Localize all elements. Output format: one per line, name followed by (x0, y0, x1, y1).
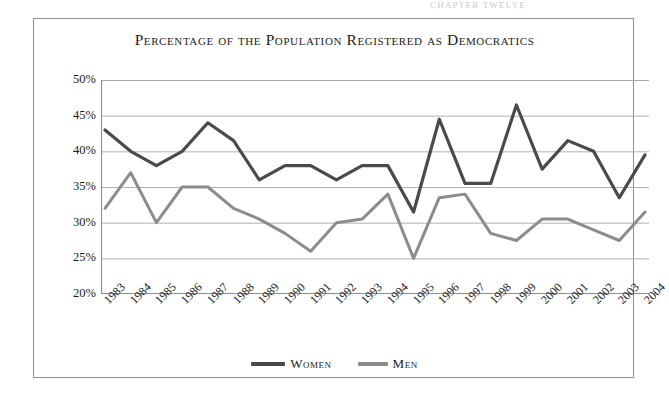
chart-title: Percentage of the Population Registered … (34, 29, 635, 50)
y-axis-tick-labels: 50%45%40%35%30%25%20% (54, 80, 96, 294)
x-axis-tick-labels: 1983198419851986198719881989199019911992… (101, 297, 649, 357)
y-axis-tick-label: 40% (56, 143, 96, 158)
series-lines (105, 105, 645, 258)
legend-label-men: Men (393, 356, 418, 372)
chart-frame: Percentage of the Population Registered … (33, 18, 634, 378)
chart-legend: Women Men (34, 356, 635, 372)
y-axis-tick-label: 45% (56, 108, 96, 123)
series-line-women (105, 105, 645, 212)
legend-entry-men[interactable]: Men (358, 356, 418, 372)
y-axis-tick-label: 50% (56, 72, 96, 87)
series-line-men (105, 173, 645, 259)
plot-svg (101, 80, 649, 294)
running-header: CHAPTER TWELVE (430, 0, 630, 9)
plot-area (101, 80, 649, 294)
y-axis-tick-label: 20% (56, 286, 96, 301)
y-axis-tick-label: 30% (56, 215, 96, 230)
line-swatch-icon-men (358, 362, 388, 366)
legend-entry-women[interactable]: Women (251, 356, 331, 372)
y-axis-tick-label: 25% (56, 250, 96, 265)
line-swatch-icon-women (251, 362, 285, 367)
y-axis-tick-label: 35% (56, 179, 96, 194)
legend-label-women: Women (290, 356, 331, 372)
